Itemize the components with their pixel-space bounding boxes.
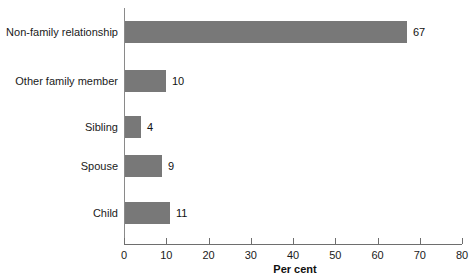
x-axis-line <box>124 244 462 245</box>
bar-value-2: 4 <box>147 116 153 138</box>
x-tick-2 <box>209 238 210 244</box>
x-tick-8 <box>462 238 463 244</box>
x-tick-label-8: 80 <box>456 249 468 261</box>
bar-3 <box>124 155 162 177</box>
x-tick-label-0: 0 <box>121 249 127 261</box>
category-label-3: Spouse <box>0 155 118 177</box>
y-axis-line <box>124 8 125 244</box>
x-tick-6 <box>378 238 379 244</box>
bar-2 <box>124 116 141 138</box>
x-tick-5 <box>335 238 336 244</box>
x-tick-1 <box>166 238 167 244</box>
x-tick-0 <box>124 238 125 244</box>
bar-4 <box>124 202 170 224</box>
bar-0 <box>124 21 407 43</box>
bar-chart: Non-family relationship Other family mem… <box>0 0 475 280</box>
x-tick-label-2: 20 <box>202 249 214 261</box>
category-label-1: Other family member <box>0 70 118 92</box>
x-axis-title: Per cent <box>273 263 316 275</box>
bar-value-4: 11 <box>176 202 187 224</box>
x-tick-label-4: 40 <box>287 249 299 261</box>
x-tick-label-3: 30 <box>245 249 257 261</box>
category-label-0: Non-family relationship <box>0 21 118 43</box>
x-tick-label-7: 70 <box>414 249 426 261</box>
category-label-2: Sibling <box>0 116 118 138</box>
x-tick-label-1: 10 <box>160 249 172 261</box>
bar-1 <box>124 70 166 92</box>
x-tick-label-5: 50 <box>329 249 341 261</box>
x-tick-7 <box>420 238 421 244</box>
x-tick-label-6: 60 <box>371 249 383 261</box>
bar-value-0: 67 <box>413 21 425 43</box>
x-tick-4 <box>293 238 294 244</box>
x-tick-3 <box>251 238 252 244</box>
category-label-4: Child <box>0 202 118 224</box>
bar-value-1: 10 <box>172 70 184 92</box>
plot-area: Non-family relationship Other family mem… <box>0 0 475 280</box>
bar-value-3: 9 <box>168 155 174 177</box>
